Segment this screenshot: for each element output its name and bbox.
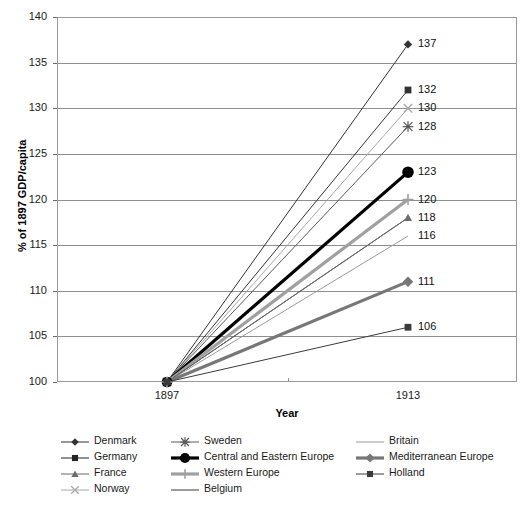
legend-key-glyph <box>355 436 385 448</box>
series-line <box>167 127 408 383</box>
legend-key-glyph <box>355 468 385 480</box>
data-point-label: 128 <box>418 120 436 132</box>
legend-label: Western Europe <box>204 466 280 478</box>
y-axis-title: % of 1897 GDP/capita <box>16 139 28 252</box>
marker-square <box>164 379 170 385</box>
legend-key <box>60 434 90 446</box>
marker-plus <box>180 469 190 479</box>
chart-page: 100105110115120125130135140 18971913 137… <box>0 0 531 506</box>
data-point-label: 118 <box>418 211 436 223</box>
x-axis-title: Year <box>57 407 517 419</box>
legend-key-glyph <box>60 484 90 496</box>
legend-item[interactable]: Mediterranean Europe <box>355 448 493 463</box>
legend-key <box>170 466 200 478</box>
marker-circle <box>402 166 414 178</box>
legend-key <box>170 482 200 494</box>
legend-label: Holland <box>389 466 425 478</box>
legend-label: Mediterranean Europe <box>389 450 493 462</box>
legend-key-glyph <box>355 452 385 464</box>
marker-triangle <box>404 214 412 221</box>
legend-item[interactable]: Sweden <box>170 432 242 447</box>
marker-square <box>72 454 78 460</box>
legend-item[interactable]: Germany <box>60 448 137 463</box>
data-point-label: 123 <box>418 165 436 177</box>
legend-key-glyph <box>60 436 90 448</box>
legend-key-glyph <box>170 436 200 448</box>
legend-item[interactable]: France <box>60 464 127 479</box>
series-line <box>167 172 408 382</box>
marker-diamond <box>365 453 374 462</box>
legend-item[interactable]: Western Europe <box>170 464 280 479</box>
series-line <box>167 90 408 382</box>
legend-item[interactable]: Denmark <box>60 432 137 447</box>
marker-star <box>180 437 190 447</box>
data-point-label: 137 <box>418 37 436 49</box>
legend-key <box>60 482 90 494</box>
legend-item[interactable]: Norway <box>60 480 130 495</box>
legend-label: Britain <box>389 434 419 446</box>
marker-xcross <box>404 104 412 112</box>
marker-square <box>405 324 412 331</box>
series-line <box>167 236 408 382</box>
legend-label: Norway <box>94 482 130 494</box>
marker-circle <box>180 452 190 462</box>
data-point-label: 132 <box>418 83 436 95</box>
legend-label: Central and Eastern Europe <box>204 450 334 462</box>
legend-key <box>355 466 385 478</box>
series-lines <box>0 0 531 424</box>
marker-star <box>403 121 414 132</box>
legend-item[interactable]: Britain <box>355 432 419 447</box>
chart-area: 100105110115120125130135140 18971913 137… <box>0 0 531 424</box>
data-point-label: 120 <box>418 193 436 205</box>
series-line <box>167 108 408 382</box>
legend-key-glyph <box>60 452 90 464</box>
marker-square <box>405 87 412 94</box>
legend-label: Sweden <box>204 434 242 446</box>
marker-diamond <box>404 40 412 48</box>
legend-item[interactable]: Holland <box>355 464 425 479</box>
legend-key <box>355 434 385 446</box>
marker-diamond <box>403 276 414 287</box>
data-point-label: 130 <box>418 101 436 113</box>
data-point-label: 111 <box>418 275 435 287</box>
legend-label: Denmark <box>94 434 137 446</box>
legend-key <box>170 434 200 446</box>
chart-legend: DenmarkGermanyFranceNorwaySwedenCentral … <box>0 430 531 502</box>
legend-key <box>60 466 90 478</box>
legend-key-glyph <box>60 468 90 480</box>
legend-item[interactable]: Central and Eastern Europe <box>170 448 334 463</box>
data-point-label: 106 <box>418 320 436 332</box>
legend-key-glyph <box>170 484 200 496</box>
legend-item[interactable]: Belgium <box>170 480 242 495</box>
legend-key <box>355 450 385 462</box>
legend-label: Belgium <box>204 482 242 494</box>
legend-key <box>60 450 90 462</box>
data-point-label: 116 <box>418 229 436 241</box>
legend-label: Germany <box>94 450 137 462</box>
marker-square <box>367 470 373 476</box>
legend-label: France <box>94 466 127 478</box>
marker-diamond <box>71 438 79 446</box>
legend-key-glyph <box>170 452 200 464</box>
legend-key-glyph <box>170 468 200 480</box>
series-line <box>167 218 408 382</box>
legend-key <box>170 450 200 462</box>
